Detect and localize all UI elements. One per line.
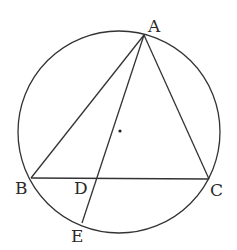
label-d: D — [74, 178, 88, 198]
segment-ae — [82, 35, 144, 223]
segment-ac — [144, 35, 209, 179]
label-e: E — [71, 226, 83, 246]
diagram-svg: A B C D E — [0, 0, 237, 250]
segment-bc — [31, 178, 209, 179]
geometry-diagram: A B C D E — [0, 0, 237, 250]
label-b: B — [15, 178, 28, 198]
label-a: A — [147, 16, 161, 36]
segment-ab — [31, 35, 144, 178]
label-c: C — [210, 180, 223, 200]
center-dot — [118, 129, 121, 132]
